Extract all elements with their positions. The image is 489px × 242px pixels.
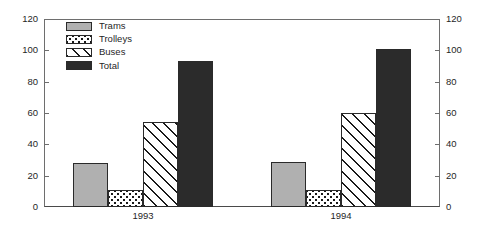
y-axis-label-right: 20 [446,171,457,181]
bar-trams-1993 [73,163,108,207]
y-axis-label-right: 100 [446,45,462,55]
legend-label: Trolleys [99,34,132,44]
y-axis-label-left: 20 [0,171,38,181]
legend-label: Total [99,61,119,71]
legend-label: Trams [99,21,126,31]
x-axis-label-1993: 1993 [113,211,173,221]
y-axis-label-right: 120 [446,14,462,24]
y-axis-label-right: 0 [446,202,451,212]
y-axis-label-left: 80 [0,77,38,87]
bar-trolleys-1994 [306,190,341,207]
bar-trams-1994 [271,162,306,207]
bar-trolleys-1993 [108,190,143,207]
y-axis-label-right: 40 [446,139,457,149]
legend-label: Buses [99,47,125,57]
y-axis-label-left: 0 [0,202,38,212]
y-axis-label-left: 40 [0,139,38,149]
bar-total-1993 [178,61,213,207]
bar-buses-1994 [341,113,376,207]
legend-swatch-total-icon [66,61,92,70]
bar-total-1994 [376,49,411,207]
legend-item-trams: Trams [66,21,132,31]
legend-item-trolleys: Trolleys [66,34,132,44]
y-axis-label-left: 60 [0,108,38,118]
legend-item-buses: Buses [66,47,132,57]
bar-chart: 002020404060608080100100120120 19931994 … [0,0,489,242]
y-axis-label-right: 80 [446,77,457,87]
legend-swatch-trams-icon [66,22,92,31]
legend: TramsTrolleysBusesTotal [66,21,132,71]
legend-item-total: Total [66,61,132,71]
x-axis-label-1994: 1994 [311,211,371,221]
bar-buses-1993 [143,122,178,207]
legend-swatch-trolleys-icon [66,35,92,44]
y-axis-label-left: 120 [0,14,38,24]
y-axis-label-left: 100 [0,45,38,55]
legend-swatch-buses-icon [66,48,92,57]
y-axis-label-right: 60 [446,108,457,118]
